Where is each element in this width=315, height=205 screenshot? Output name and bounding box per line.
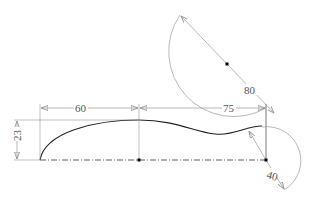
point-mid-base[interactable] xyxy=(138,159,141,162)
dimension-label-23: 23 xyxy=(11,130,23,142)
large-arc[interactable] xyxy=(169,15,266,117)
point-end-base[interactable] xyxy=(265,159,268,162)
point-large-arc-center[interactable] xyxy=(226,63,229,66)
dimension-label-60: 60 xyxy=(75,102,87,114)
profile-curve[interactable] xyxy=(40,120,262,160)
radius-line-inner xyxy=(249,131,266,160)
cad-drawing: 60 75 23 80 40 xyxy=(0,0,315,205)
dimension-label-40: 40 xyxy=(265,168,279,183)
dimension-label-80: 80 xyxy=(244,84,256,96)
dimension-label-75: 75 xyxy=(223,102,235,114)
